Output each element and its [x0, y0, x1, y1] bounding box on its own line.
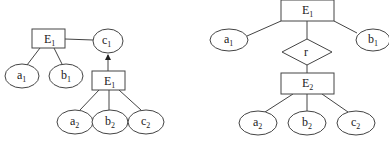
edge-e1-a1: [247, 21, 281, 36]
er-diagrams-canvas: E1 c1 a1 b1 E1 a2 b2: [0, 0, 389, 146]
edge-e1-b1: [54, 48, 62, 64]
svg-text:r: r: [304, 45, 308, 59]
edge-e1-a1: [27, 48, 40, 65]
attribute-b2: b2: [92, 110, 128, 134]
edge-e2-a2: [265, 94, 293, 112]
attribute-a2: a2: [239, 111, 277, 135]
attribute-b2: b2: [288, 111, 326, 135]
edge-e1b-a2: [80, 90, 99, 110]
edge-e1-b1: [334, 21, 357, 33]
attribute-b1: b1: [49, 64, 83, 88]
attribute-a1: a1: [5, 64, 39, 88]
relationship-r: r: [282, 39, 332, 65]
attribute-b1: b1: [356, 29, 389, 51]
edge-e2-c2: [322, 94, 348, 112]
right-er-diagram: E1 a1 b1 r E2 a2 b2: [210, 0, 389, 135]
entity-e1-bottom: E1: [92, 71, 125, 90]
edge-e1b-c2: [119, 90, 141, 110]
entity-e1: E1: [281, 0, 334, 21]
entity-e2: E2: [281, 73, 334, 94]
attribute-c1: c1: [93, 29, 123, 53]
entity-e1-top: E1: [32, 29, 65, 48]
attribute-a1: a1: [210, 29, 248, 51]
attribute-a2: a2: [57, 110, 93, 134]
attribute-c2: c2: [337, 111, 375, 135]
left-er-diagram: E1 c1 a1 b1 E1 a2 b2: [5, 29, 164, 134]
attribute-c2: c2: [128, 110, 164, 134]
edge-e1-c1: [65, 39, 93, 40]
